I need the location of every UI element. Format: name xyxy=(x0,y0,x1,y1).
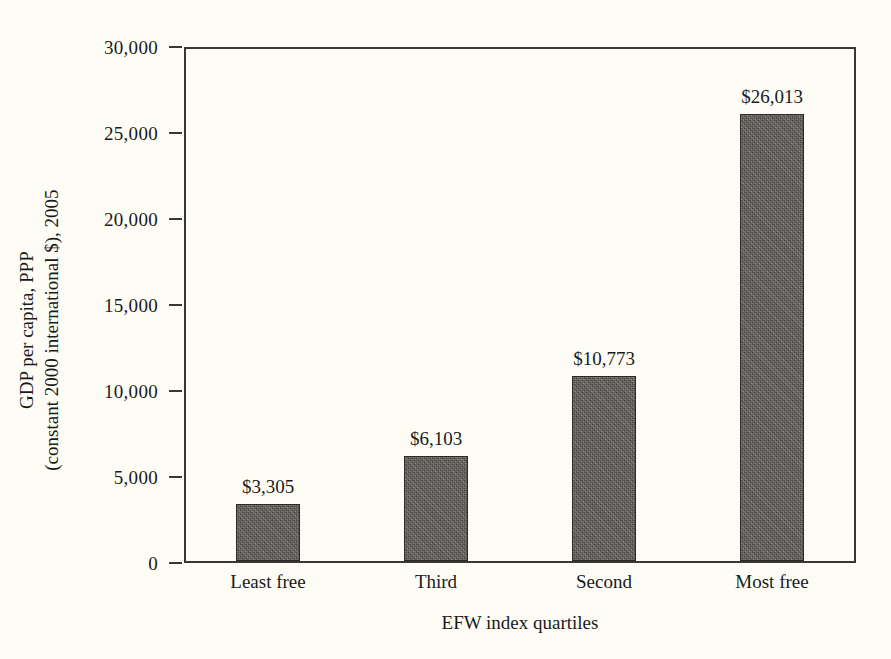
y-axis-tick-label: 30,000 xyxy=(104,38,158,57)
bar-group: $6,103 xyxy=(404,45,468,561)
bar-value-label: $6,103 xyxy=(410,429,462,448)
y-axis-tick-mark xyxy=(169,218,182,220)
y-axis-tick-mark xyxy=(169,476,182,478)
y-axis-title-line-1: GDP per capita, PPP xyxy=(14,72,39,588)
y-axis-tick-label: 15,000 xyxy=(104,296,158,315)
y-axis-tick-mark xyxy=(169,46,182,48)
y-axis-tick-mark xyxy=(169,562,182,564)
bar-value-label: $10,773 xyxy=(573,349,635,368)
y-axis-title: GDP per capita, PPP (constant 2000 inter… xyxy=(14,72,64,588)
y-axis-tick-mark xyxy=(169,390,182,392)
bar-group: $26,013 xyxy=(740,45,804,561)
bar-group: $10,773 xyxy=(572,45,636,561)
bar-value-label: $3,305 xyxy=(242,477,294,496)
y-axis-tick-label: 20,000 xyxy=(104,210,158,229)
bar-chart-figure: 05,00010,00015,00020,00025,00030,000 GDP… xyxy=(0,0,891,659)
y-axis-tick-label: 0 xyxy=(148,554,158,573)
y-axis-tick-mark xyxy=(169,132,182,134)
plot-area: $3,305$6,103$10,773$26,013 xyxy=(184,47,856,563)
y-axis-tick-label: 10,000 xyxy=(104,382,158,401)
y-axis-tick-label: 25,000 xyxy=(104,124,158,143)
x-axis-tick-label: Most free xyxy=(672,572,872,591)
x-axis-title: EFW index quartiles xyxy=(184,613,856,632)
bar[interactable] xyxy=(740,114,804,561)
y-axis-tick-label: 5,000 xyxy=(114,468,158,487)
bar[interactable] xyxy=(236,504,300,561)
y-axis-tick-mark xyxy=(169,304,182,306)
y-axis-title-line-2: (constant 2000 international $), 2005 xyxy=(39,72,64,588)
bar[interactable] xyxy=(404,456,468,561)
bar[interactable] xyxy=(572,376,636,561)
bar-value-label: $26,013 xyxy=(741,87,803,106)
bar-group: $3,305 xyxy=(236,45,300,561)
